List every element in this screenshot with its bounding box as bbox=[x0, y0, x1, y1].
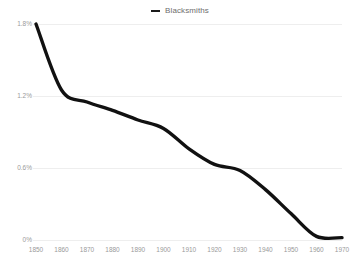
x-tick-label: 1910 bbox=[176, 247, 202, 254]
x-tick-label: 1960 bbox=[304, 247, 330, 254]
x-tick-label: 1920 bbox=[202, 247, 228, 254]
x-tick-label: 1850 bbox=[23, 247, 49, 254]
x-tick-label: 1950 bbox=[278, 247, 304, 254]
y-tick-label: 0.6% bbox=[2, 165, 32, 172]
x-tick-label: 1970 bbox=[329, 247, 355, 254]
y-tick-label: 0% bbox=[2, 237, 32, 244]
series-line-blacksmiths bbox=[36, 24, 342, 238]
x-tick-label: 1870 bbox=[74, 247, 100, 254]
gridlines bbox=[33, 24, 342, 240]
x-tick-label: 1930 bbox=[227, 247, 253, 254]
x-tick-label: 1940 bbox=[253, 247, 279, 254]
x-tick-label: 1880 bbox=[100, 247, 126, 254]
x-tick-label: 1890 bbox=[125, 247, 151, 254]
plot-area bbox=[0, 0, 360, 267]
x-tick-label: 1900 bbox=[151, 247, 177, 254]
line-chart: Blacksmiths 0%0.6%1.2%1.8% 1850186018701… bbox=[0, 0, 360, 267]
data-series-group bbox=[36, 24, 342, 238]
y-tick-label: 1.2% bbox=[2, 93, 32, 100]
y-tick-label: 1.8% bbox=[2, 21, 32, 28]
x-tick-label: 1860 bbox=[49, 247, 75, 254]
